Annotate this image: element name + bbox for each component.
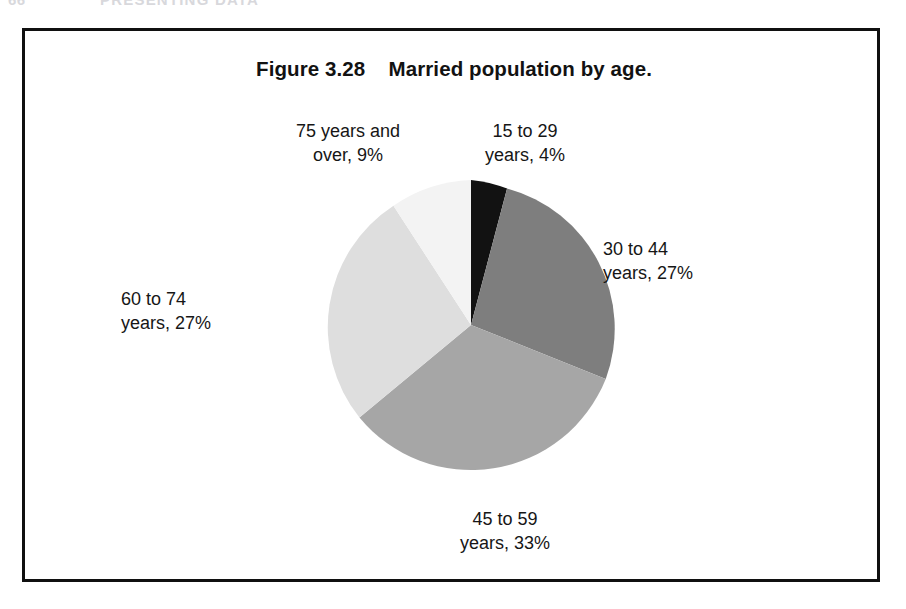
pie-chart-plot-area: 15 to 29 years, 4% 30 to 44 years, 27% 4… — [25, 31, 883, 585]
pie-label-15-to-29: 15 to 29 years, 4% — [455, 119, 595, 168]
figure-frame: Figure 3.28 Married population by age. 1… — [22, 28, 880, 582]
pie-label-30-to-44: 30 to 44 years, 27% — [603, 237, 783, 286]
page-folio-number: 66 — [8, 0, 26, 8]
pie-label-45-to-59: 45 to 59 years, 33% — [405, 507, 605, 556]
pie-label-75-and-over: 75 years and over, 9% — [253, 119, 443, 168]
pie-label-60-to-74: 60 to 74 years, 27% — [121, 287, 297, 336]
page-header-remnant: 66 PRESENTING DATA — [0, 0, 906, 12]
pie-chart — [321, 175, 621, 475]
pie-slices — [328, 180, 615, 470]
page-running-title: PRESENTING DATA — [100, 0, 259, 8]
